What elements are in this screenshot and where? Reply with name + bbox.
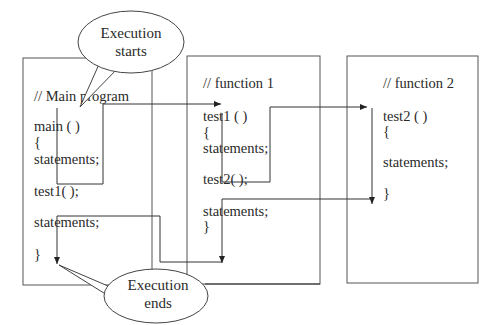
function1-comment: // function 1 <box>203 75 274 91</box>
execution-starts-callout: Execution starts <box>78 11 184 107</box>
main-statements-1: statements; <box>34 151 99 167</box>
main-call-test1: test1( ); <box>34 183 79 200</box>
call-test1-arrow <box>57 104 221 184</box>
function1-code: // function 1 test1 ( ) { statements; te… <box>203 75 274 234</box>
function2-close-brace: } <box>383 185 390 201</box>
function1-signature: test1 ( ) <box>203 108 247 125</box>
function1-statements-2: statements; <box>203 203 268 219</box>
execution-ends-line1: Execution <box>128 277 189 293</box>
function2-statements: statements; <box>383 154 448 170</box>
function1-open-brace: { <box>203 124 210 140</box>
execution-starts-line1: Execution <box>101 25 162 41</box>
execution-ends-callout: Execution ends <box>59 265 208 323</box>
function2-open-brace: { <box>383 123 390 139</box>
function1-call-test2: test2( ); <box>203 171 248 188</box>
function-call-diagram: // Main program main ( ) { statements; t… <box>0 0 497 325</box>
execution-starts-line2: starts <box>115 43 147 59</box>
main-open-brace: { <box>34 134 41 150</box>
main-program-code: // Main program main ( ) { statements; t… <box>34 88 130 262</box>
function2-comment: // function 2 <box>383 75 454 91</box>
function1-statements-1: statements; <box>203 140 268 156</box>
execution-ends-line2: ends <box>144 295 172 311</box>
main-close-brace: } <box>34 246 41 262</box>
function1-close-brace: } <box>203 218 210 234</box>
function2-code: // function 2 test2 ( ) { statements; } <box>383 75 454 201</box>
